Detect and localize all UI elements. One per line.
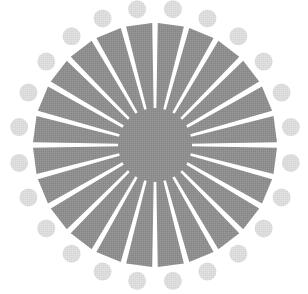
ring-dot [255, 219, 273, 237]
ring-dot [273, 188, 291, 206]
ring-dot [229, 245, 247, 263]
ring-dot [37, 219, 55, 237]
ring-dot [94, 263, 112, 281]
center-disc [118, 108, 192, 182]
ring-dot [63, 27, 81, 45]
ring-dot [19, 188, 37, 206]
ring-dot [128, 272, 146, 290]
ring-dot [94, 9, 112, 27]
ring-dot [128, 0, 146, 18]
ring-dot [198, 9, 216, 27]
emblem-canvas [0, 0, 308, 294]
ring-dot [164, 272, 182, 290]
ring-dot [273, 84, 291, 102]
ring-dot [282, 154, 300, 172]
sunburst-emblem-svg [0, 0, 308, 294]
ring-dot [63, 245, 81, 263]
ring-dot [198, 263, 216, 281]
ring-dot [37, 53, 55, 71]
ring-dot [164, 0, 182, 18]
ring-dot [10, 154, 28, 172]
ring-dot [229, 27, 247, 45]
ring-dot [282, 118, 300, 136]
ring-dot [10, 118, 28, 136]
ring-dot [255, 53, 273, 71]
ring-dot [19, 84, 37, 102]
